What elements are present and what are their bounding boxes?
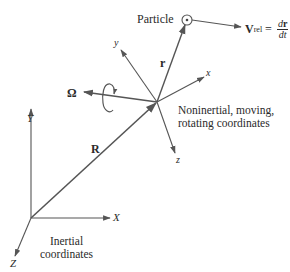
- inertial-z-axis-label: Z: [10, 258, 16, 269]
- inertial-axes: [15, 109, 110, 256]
- rotating-z-axis: [157, 102, 175, 153]
- rotating-z-axis-label: z: [176, 155, 180, 165]
- origin-position-label: R: [91, 143, 100, 155]
- reference-frame-diagram: [0, 0, 290, 272]
- relative-velocity-vector: [192, 20, 241, 27]
- particle-label: Particle: [137, 13, 174, 25]
- inertial-frame-caption: Inertial coordinates: [40, 235, 93, 261]
- particle-icon: [182, 15, 192, 25]
- relative-position-label: r: [160, 57, 165, 69]
- rotating-caption-line-2: rotating coordinates: [178, 117, 274, 130]
- rotating-caption-line-1: Noninertial, moving,: [178, 104, 274, 117]
- velocity-subscript: rel: [254, 25, 262, 34]
- derivative-dt: dt: [278, 30, 288, 40]
- velocity-symbol: V: [245, 22, 254, 37]
- angular-velocity-label: Ω: [67, 87, 77, 99]
- derivative-fraction: dr dt: [277, 19, 288, 40]
- inertial-y-axis-label: Y: [27, 113, 33, 124]
- derivative-r: r: [283, 18, 287, 29]
- relative-velocity-label: Vrel = dr dt: [245, 19, 288, 40]
- inertial-x-axis-label: X: [113, 212, 120, 223]
- inertial-caption-line-2: coordinates: [40, 248, 93, 261]
- inertial-z-axis: [15, 218, 31, 256]
- rotating-x-axis-label: x: [206, 68, 210, 78]
- equals-sign: =: [265, 22, 272, 37]
- rotating-y-axis-label: y: [114, 38, 118, 48]
- rotating-y-axis: [121, 50, 157, 102]
- rotation-loop-icon: [103, 84, 115, 112]
- origin-position-vector-R: [31, 103, 156, 218]
- rotating-frame-caption: Noninertial, moving, rotating coordinate…: [178, 104, 274, 130]
- angular-velocity-vector: [84, 92, 157, 102]
- inertial-caption-line-1: Inertial: [40, 235, 93, 248]
